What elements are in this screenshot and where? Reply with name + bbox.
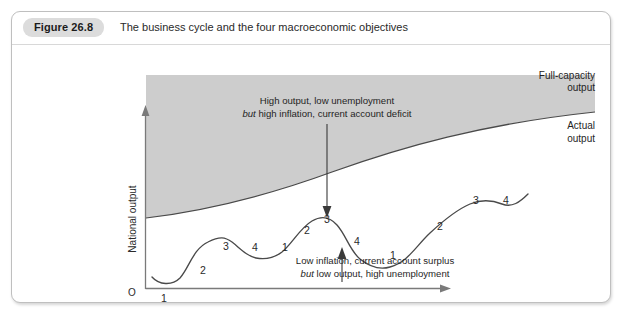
full-capacity-output-label-line1: Full-capacity xyxy=(539,70,595,81)
cycle-label-1-3: 3 xyxy=(223,240,229,252)
cycle-label-3-4: 4 xyxy=(503,194,509,206)
actual-output-label-line2: output xyxy=(567,133,595,144)
cycle-point-labels: 1 2 3 4 1 2 3 4 1 2 3 4 xyxy=(161,194,509,302)
full-capacity-output-label-line2: output xyxy=(567,82,595,93)
actual-output-label-line1: Actual xyxy=(567,120,595,131)
x-axis-arrowhead xyxy=(440,285,451,293)
origin-label: O xyxy=(128,287,136,298)
business-cycle-chart: National output Time O Full-capacity out… xyxy=(12,44,610,302)
cycle-label-2-2: 2 xyxy=(304,224,310,236)
cycle-label-3-2: 2 xyxy=(437,220,443,232)
peak-annotation-line1: High output, low unemployment xyxy=(260,95,395,106)
trough-annotation-emphasis: but xyxy=(301,268,315,279)
peak-annotation-emphasis: but xyxy=(242,108,256,119)
cycle-label-3-1: 1 xyxy=(390,249,396,261)
trough-annotation-line2: but low output, high unemployment xyxy=(301,268,450,279)
peak-annotation-line2-rest: high inflation, current account deficit xyxy=(256,108,412,119)
figure-header: Figure 26.8 The business cycle and the f… xyxy=(12,12,610,45)
cycle-label-3-3: 3 xyxy=(473,194,479,206)
cycle-label-2-3: 3 xyxy=(324,213,330,225)
trough-annotation-arrowhead xyxy=(338,247,347,259)
y-axis-label: National output xyxy=(127,185,138,252)
trough-annotation-line2-rest: low output, high unemployment xyxy=(314,268,450,279)
figure-card: Figure 26.8 The business cycle and the f… xyxy=(11,11,611,303)
cycle-label-1-4: 4 xyxy=(252,241,258,253)
trough-annotation-line1: Low inflation, current account surplus xyxy=(296,255,455,266)
cycle-label-1-2: 2 xyxy=(200,264,206,276)
cycle-label-2-1: 1 xyxy=(282,241,288,253)
cycle-label-2-4: 4 xyxy=(354,235,360,247)
cycle-label-1-1: 1 xyxy=(161,292,167,302)
figure-number-badge: Figure 26.8 xyxy=(23,18,104,37)
figure-caption: The business cycle and the four macroeco… xyxy=(120,21,408,33)
chart-plot-area: National output Time O Full-capacity out… xyxy=(12,44,610,302)
peak-annotation-line2: but high inflation, current account defi… xyxy=(242,108,411,119)
